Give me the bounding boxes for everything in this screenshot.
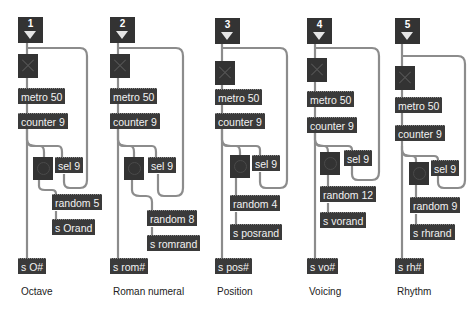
sel-object-4[interactable]: sel 9 bbox=[344, 150, 372, 166]
bang-1[interactable] bbox=[33, 157, 53, 180]
random-object-1[interactable]: random 5 bbox=[52, 194, 102, 210]
inlet-arrow-icon bbox=[221, 32, 233, 40]
inlet-number: 1 bbox=[28, 18, 34, 29]
metro-object-2[interactable]: metro 50 bbox=[110, 88, 157, 104]
column-label-position: Position bbox=[217, 286, 253, 297]
column-label-voicing: Voicing bbox=[309, 286, 341, 297]
counter-object-1[interactable]: counter 9 bbox=[18, 113, 68, 129]
counter-object-3[interactable]: counter 9 bbox=[215, 113, 265, 129]
inlet-number: 2 bbox=[120, 18, 126, 29]
toggle-4[interactable] bbox=[307, 58, 327, 82]
send-rand-object-3[interactable]: s posrand bbox=[230, 224, 282, 240]
random-object-2[interactable]: random 8 bbox=[147, 210, 197, 226]
max-patch-canvas: 1 metro 50 counter 9 sel 9 random 5 s Or… bbox=[0, 0, 476, 312]
metro-object-4[interactable]: metro 50 bbox=[307, 91, 354, 107]
send-main-object-3[interactable]: s pos# bbox=[215, 258, 252, 274]
send-rand-object-1[interactable]: s Orand bbox=[52, 219, 95, 235]
sel-object-5[interactable]: sel 9 bbox=[431, 160, 459, 176]
toggle-5[interactable] bbox=[395, 66, 415, 90]
send-main-object-5[interactable]: s rh# bbox=[395, 258, 424, 274]
column-label-octave: Octave bbox=[21, 286, 53, 297]
toggle-1[interactable] bbox=[18, 54, 38, 78]
bang-circle-icon bbox=[413, 167, 426, 180]
random-object-3[interactable]: random 4 bbox=[230, 195, 280, 211]
inlet-arrow-icon bbox=[24, 31, 36, 39]
metro-object-3[interactable]: metro 50 bbox=[215, 89, 262, 105]
toggle-3[interactable] bbox=[215, 61, 235, 85]
inlet-number: 4 bbox=[317, 19, 323, 30]
inlet-number: 3 bbox=[225, 19, 231, 30]
bang-circle-icon bbox=[324, 157, 337, 170]
inlet-1[interactable]: 1 bbox=[18, 17, 43, 43]
bang-3[interactable] bbox=[230, 155, 250, 178]
random-object-4[interactable]: random 12 bbox=[320, 186, 376, 202]
bang-circle-icon bbox=[128, 162, 141, 175]
column-label-roman-numeral: Roman numeral bbox=[113, 286, 184, 297]
send-main-object-1[interactable]: s O# bbox=[18, 258, 46, 274]
inlet-3[interactable]: 3 bbox=[215, 18, 240, 44]
sel-object-2[interactable]: sel 9 bbox=[148, 157, 176, 173]
inlet-arrow-icon bbox=[401, 32, 413, 40]
inlet-arrow-icon bbox=[116, 31, 128, 39]
counter-object-2[interactable]: counter 9 bbox=[110, 113, 160, 129]
bang-circle-icon bbox=[37, 162, 50, 175]
column-label-rhythm: Rhythm bbox=[397, 286, 431, 297]
toggle-2[interactable] bbox=[110, 54, 130, 78]
bang-2[interactable] bbox=[124, 157, 144, 180]
metro-object-1[interactable]: metro 50 bbox=[18, 88, 65, 104]
counter-object-5[interactable]: counter 9 bbox=[395, 125, 445, 141]
inlet-number: 5 bbox=[405, 19, 411, 30]
send-rand-object-5[interactable]: s rhrand bbox=[410, 224, 455, 240]
inlet-4[interactable]: 4 bbox=[307, 18, 332, 44]
sel-object-1[interactable]: sel 9 bbox=[55, 157, 83, 173]
send-main-object-2[interactable]: s rom# bbox=[110, 258, 148, 274]
metro-object-5[interactable]: metro 50 bbox=[395, 97, 442, 113]
inlet-arrow-icon bbox=[313, 32, 325, 40]
random-object-5[interactable]: random 9 bbox=[410, 197, 460, 213]
send-main-object-4[interactable]: s vo# bbox=[307, 258, 338, 274]
bang-circle-icon bbox=[234, 160, 247, 173]
sel-object-3[interactable]: sel 9 bbox=[252, 155, 280, 171]
bang-5[interactable] bbox=[409, 162, 429, 185]
send-rand-object-2[interactable]: s romrand bbox=[147, 235, 200, 251]
counter-object-4[interactable]: counter 9 bbox=[307, 117, 357, 133]
bang-4[interactable] bbox=[320, 152, 340, 175]
send-rand-object-4[interactable]: s vorand bbox=[320, 212, 366, 228]
inlet-2[interactable]: 2 bbox=[110, 17, 135, 43]
inlet-5[interactable]: 5 bbox=[395, 18, 420, 44]
